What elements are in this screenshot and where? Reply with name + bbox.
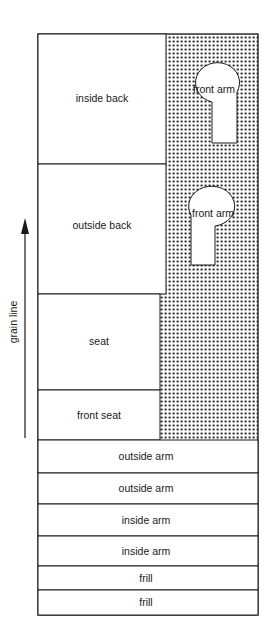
piece-label: front seat xyxy=(77,409,121,421)
piece-label: inside arm xyxy=(122,545,171,557)
piece-label: inside back xyxy=(76,92,129,104)
piece-label: seat xyxy=(89,335,109,347)
piece-label: outside back xyxy=(73,219,133,231)
piece-label: inside arm xyxy=(122,514,171,526)
piece-label: outside arm xyxy=(119,482,174,494)
piece-label: frill xyxy=(139,572,152,584)
cutting-layout-diagram: inside back outside back seat front seat… xyxy=(0,0,277,639)
piece-label: front arm xyxy=(192,207,234,219)
grain-line-arrow-icon xyxy=(21,218,29,438)
grain-line-label: grain line xyxy=(7,301,19,344)
piece-label: frill xyxy=(139,596,152,608)
piece-label: outside arm xyxy=(119,450,174,462)
piece-label: front arm xyxy=(193,83,235,95)
